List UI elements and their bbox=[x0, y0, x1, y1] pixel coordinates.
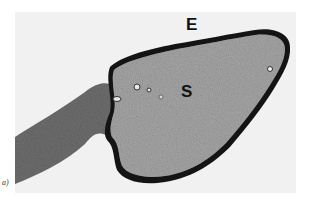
figure-canvas: E S a) bbox=[0, 0, 309, 201]
stalk bbox=[15, 83, 115, 184]
figure-panel-caption: a) bbox=[2, 178, 9, 187]
epithelium-label: E bbox=[186, 16, 197, 33]
stroma-label: S bbox=[181, 83, 192, 100]
micrograph bbox=[15, 12, 296, 193]
tissue-section-graphic bbox=[15, 12, 296, 193]
